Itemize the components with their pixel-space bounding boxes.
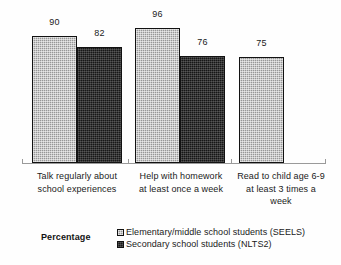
bar-series-1-category-1[interactable] bbox=[180, 56, 225, 163]
x-axis-category-labels: Talk regularly about school experiences … bbox=[0, 170, 341, 222]
bar-value-series-1-category-1: 76 bbox=[176, 37, 229, 47]
category-label-2-line-0: Read to child age 6-9 bbox=[220, 170, 341, 183]
category-label-2-line-1: at least 3 times a bbox=[220, 183, 341, 196]
x-axis-baseline bbox=[22, 163, 325, 164]
category-label-2: Read to child age 6-9 at least 3 times a… bbox=[220, 170, 341, 208]
bar-series-1-category-0[interactable] bbox=[77, 47, 122, 163]
bar-value-series-0-category-2: 75 bbox=[235, 38, 288, 48]
legend-item-seels[interactable]: Elementary/middle school students (SEELS… bbox=[117, 227, 305, 238]
legend-item-nlts2-label: Secondary school students (NLTS2) bbox=[126, 239, 272, 249]
category-label-2-line-2: week bbox=[220, 195, 341, 208]
percentage-axis-title: Percentage bbox=[41, 232, 91, 242]
bar-value-series-0-category-1: 96 bbox=[131, 9, 184, 19]
chart-legend: Percentage Elementary/middle school stud… bbox=[0, 222, 341, 265]
bar-value-series-0-category-0: 90 bbox=[28, 17, 81, 27]
legend-item-nlts2[interactable]: Secondary school students (NLTS2) bbox=[117, 239, 272, 250]
x-axis-tick-end bbox=[325, 159, 326, 164]
bar-series-0-category-2[interactable] bbox=[239, 57, 284, 163]
legend-item-seels-label: Elementary/middle school students (SEELS… bbox=[126, 227, 305, 237]
plot-area: 90 82 96 76 75 bbox=[0, 0, 341, 170]
bar-chart-figure: 90 82 96 76 75 Talk regularly about scho… bbox=[0, 0, 341, 265]
x-axis-tick-start bbox=[22, 159, 23, 164]
bar-group-1: 96 76 bbox=[135, 0, 225, 170]
dark-swatch-icon bbox=[117, 241, 124, 248]
bar-series-0-category-0[interactable] bbox=[32, 36, 77, 163]
x-axis-tick-2 bbox=[231, 159, 232, 164]
light-gray-swatch-icon bbox=[117, 229, 124, 236]
x-axis-tick-1 bbox=[128, 159, 129, 164]
bar-group-2: 75 bbox=[239, 0, 329, 170]
bar-group-0: 90 82 bbox=[32, 0, 122, 170]
bar-series-0-category-1[interactable] bbox=[135, 28, 180, 163]
bar-value-series-1-category-0: 82 bbox=[73, 28, 126, 38]
